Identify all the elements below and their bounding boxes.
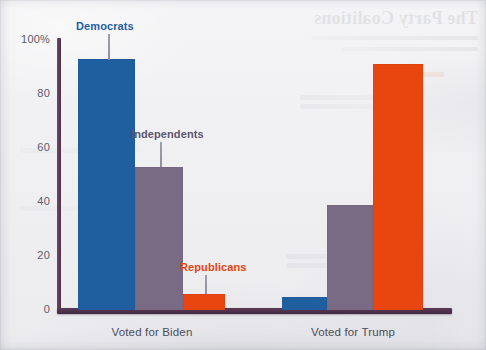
- bar-democrats-voted-for-trump: [282, 297, 327, 311]
- leader-line-democrats: [108, 34, 110, 60]
- bar-chart: 020406080100% Voted for BidenVoted for T…: [0, 0, 486, 350]
- leader-line-republicans: [205, 275, 207, 294]
- y-tick-label: 100%: [6, 33, 50, 45]
- series-label-republicans: Republicans: [180, 261, 247, 273]
- bar-republicans-voted-for-trump: [373, 64, 423, 310]
- y-tick-label: 40: [6, 195, 50, 207]
- scanned-page: The Party Coalitions 020406080100% Voted…: [0, 0, 486, 350]
- leader-line-independents: [160, 142, 162, 167]
- x-axis-label: Voted for Biden: [82, 326, 222, 338]
- y-tick-label: 20: [6, 249, 50, 261]
- y-tick-label: 80: [6, 87, 50, 99]
- y-axis-spine: [57, 38, 61, 312]
- bar-independents-voted-for-biden: [135, 167, 183, 310]
- series-label-independents: Independents: [131, 128, 204, 140]
- bar-independents-voted-for-trump: [327, 205, 373, 310]
- y-tick-label: 0: [6, 303, 50, 315]
- y-tick-label: 60: [6, 141, 50, 153]
- bar-republicans-voted-for-biden: [183, 294, 225, 310]
- bar-democrats-voted-for-biden: [78, 59, 135, 310]
- series-label-democrats: Democrats: [76, 20, 134, 32]
- x-axis-label: Voted for Trump: [283, 326, 423, 338]
